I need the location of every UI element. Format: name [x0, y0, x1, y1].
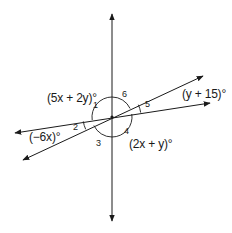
- angle-5-expression: (y + 15)°: [182, 88, 226, 100]
- angle-number-1: 1: [93, 101, 98, 110]
- angle-2-expression: (−6x)°: [29, 131, 60, 143]
- angle-number-3: 3: [96, 139, 101, 148]
- angle-3-arc: [94, 126, 112, 138]
- angle-number-4: 4: [124, 127, 129, 136]
- angle-number-2: 2: [73, 123, 78, 132]
- angle-number-6: 6: [122, 90, 127, 99]
- angle-4-expression: (2x + y)°: [129, 138, 172, 150]
- angle-number-5: 5: [145, 100, 150, 109]
- intersection-point: [110, 115, 113, 118]
- angle-diagram: [0, 0, 232, 233]
- angle-1-expression: (5x + 2y)°: [47, 92, 97, 104]
